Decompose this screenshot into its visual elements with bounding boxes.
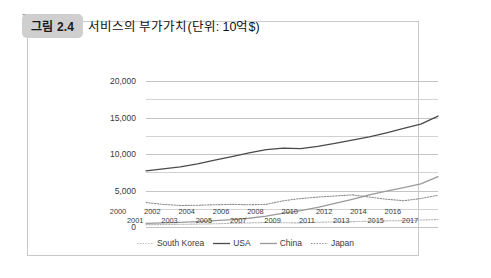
x-tick-label: 2013 xyxy=(333,216,349,225)
y-tick-label: 20,000 xyxy=(28,76,136,86)
legend-swatch-icon xyxy=(260,240,277,247)
y-tick-label: 15,000 xyxy=(28,113,136,123)
legend-label: USA xyxy=(233,238,250,248)
figure-title: 서비스의 부가가치(단위: 10억$) xyxy=(88,16,260,35)
legend-item-usa[interactable]: USA xyxy=(213,238,250,248)
x-tick-label: 2000 xyxy=(110,207,126,216)
x-tick-label: 2004 xyxy=(178,207,194,216)
legend-swatch-icon xyxy=(311,240,328,247)
x-tick-label: 2005 xyxy=(196,216,212,225)
series-lines xyxy=(146,81,438,227)
x-tick-label: 2010 xyxy=(282,207,298,216)
figure-badge: 그림 2.4 xyxy=(22,14,83,38)
y-tick-label: 10,000 xyxy=(28,149,136,159)
series-line-usa xyxy=(146,116,438,171)
series-line-japan xyxy=(146,195,438,206)
x-tick-label: 2009 xyxy=(264,216,280,225)
legend-label: South Korea xyxy=(157,238,204,248)
x-tick-label: 2016 xyxy=(385,207,401,216)
legend-label: Japan xyxy=(331,238,354,248)
legend-item-japan[interactable]: Japan xyxy=(311,238,354,248)
x-tick-label: 2014 xyxy=(350,207,366,216)
plot-area xyxy=(146,81,438,227)
x-tick-label: 2002 xyxy=(144,207,160,216)
legend-swatch-icon xyxy=(137,240,154,247)
x-tick-label: 2003 xyxy=(161,216,177,225)
x-tick-label: 2007 xyxy=(230,216,246,225)
x-tick-label: 2006 xyxy=(213,207,229,216)
chart-legend: South KoreaUSAChinaJapan xyxy=(0,238,491,248)
x-tick-label: 2012 xyxy=(316,207,332,216)
legend-item-china[interactable]: China xyxy=(260,238,302,248)
legend-item-south-korea[interactable]: South Korea xyxy=(137,238,204,248)
legend-label: China xyxy=(280,238,302,248)
x-tick-label: 2015 xyxy=(367,216,383,225)
x-axis-labels: 2000200220042006200820102012201420162001… xyxy=(118,207,410,231)
x-tick-label: 2001 xyxy=(127,216,143,225)
x-tick-label: 2008 xyxy=(247,207,263,216)
x-tick-label: 2017 xyxy=(402,216,418,225)
legend-swatch-icon xyxy=(213,240,230,247)
x-tick-label: 2011 xyxy=(299,216,315,225)
y-tick-label: 5,000 xyxy=(28,186,136,196)
